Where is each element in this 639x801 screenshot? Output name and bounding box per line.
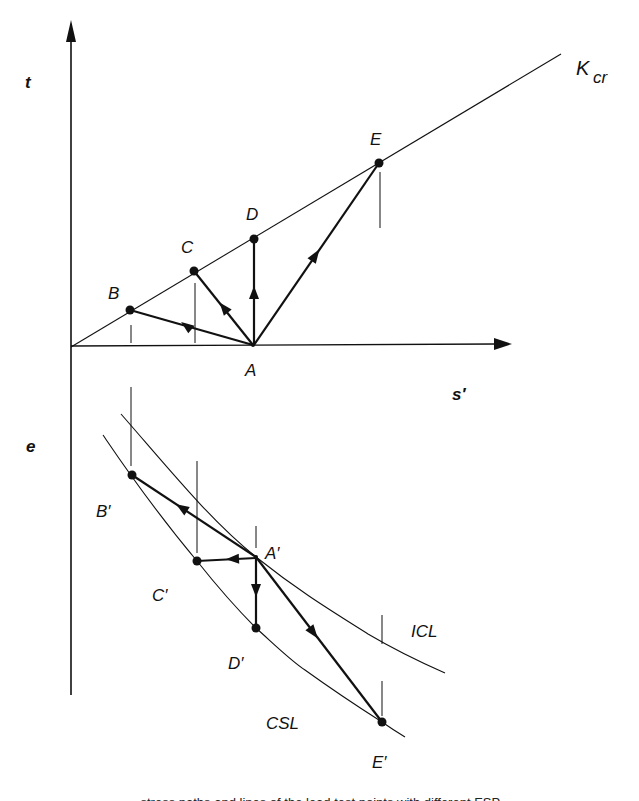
point-b-prime bbox=[128, 471, 137, 480]
point-c-prime bbox=[193, 557, 202, 566]
csl-label: CSL bbox=[266, 714, 299, 733]
point-b bbox=[126, 306, 135, 315]
label-b: B bbox=[108, 284, 119, 303]
label-b-prime: B′ bbox=[96, 502, 111, 521]
arrow-a-b-prime-icon bbox=[173, 500, 189, 515]
figure-caption-partial: ...stress paths and lines of the lead te… bbox=[0, 792, 639, 801]
s-axis-label: s′ bbox=[452, 385, 466, 404]
label-c-prime: C′ bbox=[152, 586, 168, 605]
point-d bbox=[250, 235, 259, 244]
arrow-a-d-prime-icon bbox=[251, 584, 261, 597]
s-axis-arrow-icon bbox=[494, 338, 512, 350]
point-c bbox=[190, 267, 199, 276]
label-d-prime: D′ bbox=[228, 654, 244, 673]
s-axis bbox=[71, 344, 495, 346]
label-a: A bbox=[244, 361, 256, 380]
label-a-prime: A′ bbox=[264, 544, 280, 563]
t-axis-label: t bbox=[25, 73, 32, 92]
kcr-label: K bbox=[576, 57, 591, 79]
e-axis-label: e bbox=[26, 437, 35, 456]
label-d: D bbox=[246, 205, 258, 224]
arrow-a-d-icon bbox=[249, 286, 259, 299]
top-panel: t s′ K cr A B C D E bbox=[25, 20, 609, 695]
arrow-a-e-icon bbox=[307, 247, 323, 264]
kcr-label-subscript: cr bbox=[593, 68, 609, 87]
label-e-prime: E′ bbox=[372, 753, 387, 772]
icl-curve bbox=[121, 414, 445, 673]
point-a-prime bbox=[254, 555, 258, 559]
path-a-b-prime bbox=[132, 475, 256, 557]
arrow-a-c-prime-icon bbox=[226, 554, 240, 565]
stress-path-diagram: t s′ K cr A B C D E e bbox=[0, 0, 639, 801]
label-c: C bbox=[181, 238, 194, 257]
kcr-line bbox=[71, 54, 561, 347]
point-e bbox=[375, 159, 384, 168]
point-d-prime bbox=[252, 624, 261, 633]
icl-label: ICL bbox=[411, 622, 437, 641]
bottom-panel: e A′ B′ C′ D′ E′ ICL CSL bbox=[26, 387, 445, 772]
point-e-prime bbox=[378, 718, 387, 727]
label-e: E bbox=[370, 130, 382, 149]
path-a-e-prime bbox=[256, 557, 382, 722]
t-axis-arrow-icon bbox=[66, 20, 76, 42]
point-a bbox=[251, 343, 255, 347]
